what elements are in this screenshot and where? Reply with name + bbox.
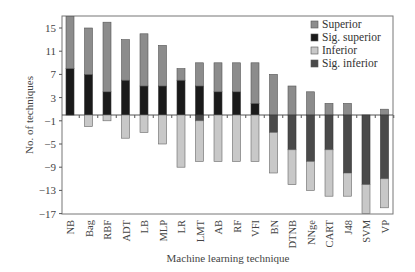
y-axis-title: No. of techniques [23, 76, 35, 154]
bar-sig-superior [66, 69, 74, 115]
bar-inferior [381, 179, 389, 208]
bar-sig-inferior [325, 115, 333, 150]
bar-inferior [307, 161, 315, 190]
bar-inferior [362, 185, 370, 214]
bar-sig-superior [251, 103, 259, 115]
y-tick-label: −9 [44, 161, 56, 173]
bar-sig-superior [177, 80, 185, 115]
bar-superior [140, 34, 148, 86]
y-ticks: 151173−1−5−9−13−17 [39, 22, 62, 220]
bar-inferior [233, 115, 241, 161]
bar-superior [325, 103, 333, 115]
legend: SuperiorSig. superiorInferiorSig. inferi… [311, 18, 381, 70]
bar-superior [66, 16, 74, 68]
bar-superior [214, 63, 222, 92]
legend-label: Superior [322, 18, 362, 31]
x-category-label: NNge [306, 220, 317, 245]
y-tick-label: −17 [39, 208, 57, 220]
stacked-bar-chart: 151173−1−5−9−13−17 NBBagRBFADTLBMLPLRLMT… [0, 0, 415, 272]
legend-label: Sig. inferior [322, 57, 378, 70]
legend-label: Inferior [322, 44, 357, 56]
x-axis-title: Machine learning technique [167, 252, 290, 264]
x-category-label: NB [65, 220, 76, 235]
x-category-label: VFI [250, 219, 261, 236]
bar-superior [233, 63, 241, 92]
bar-inferior [177, 115, 185, 167]
bar-superior [307, 92, 315, 115]
bar-superior [177, 69, 185, 81]
bar-sig-inferior [362, 115, 370, 185]
y-tick-label: −13 [39, 184, 57, 196]
bar-inferior [122, 115, 130, 138]
bar-inferior [325, 150, 333, 196]
bar-sig-inferior [288, 115, 296, 150]
bar-sig-superior [103, 92, 111, 115]
bar-sig-inferior [196, 115, 204, 121]
x-category-label: Bag [84, 219, 95, 237]
x-category-labels: NBBagRBFADTLBMLPLRLMTABRFVFIBNDTNBNNgeCA… [65, 219, 391, 248]
y-tick-label: 11 [45, 45, 56, 57]
legend-swatch [311, 34, 318, 41]
legend-swatch [311, 47, 318, 54]
bar-inferior [85, 115, 93, 127]
x-category-label: LMT [195, 219, 206, 242]
bar-superior [122, 40, 130, 81]
bar-superior [85, 28, 93, 74]
x-category-label: LR [176, 220, 187, 233]
y-tick-label: 3 [51, 92, 57, 104]
legend-label: Sig. superior [322, 31, 381, 44]
bar-inferior [288, 150, 296, 185]
x-category-label: RBF [102, 220, 113, 240]
bar-superior [344, 103, 352, 115]
bar-sig-superior [233, 92, 241, 115]
bar-inferior [251, 115, 259, 161]
bar-superior [288, 86, 296, 115]
bar-sig-superior [122, 80, 130, 115]
y-tick-label: −1 [44, 115, 56, 127]
x-category-label: RF [232, 220, 243, 233]
bar-sig-inferior [307, 115, 315, 161]
x-category-label: DTNB [287, 220, 298, 249]
bar-sig-superior [85, 74, 93, 115]
bar-superior [270, 74, 278, 115]
y-tick-label: 15 [45, 22, 57, 34]
legend-swatch [311, 60, 318, 67]
bar-superior [381, 109, 389, 115]
x-category-label: J48 [343, 220, 354, 235]
bar-superior [103, 22, 111, 92]
bar-sig-inferior [344, 115, 352, 173]
y-tick-label: −5 [44, 138, 56, 150]
bar-inferior [214, 115, 222, 161]
bar-superior [159, 45, 167, 86]
x-category-label: BN [269, 220, 280, 235]
bar-inferior [103, 115, 111, 121]
bar-inferior [159, 115, 167, 144]
bar-inferior [196, 121, 204, 162]
y-tick-label: 7 [51, 68, 57, 80]
bar-inferior [344, 173, 352, 196]
bar-sig-superior [196, 86, 204, 115]
x-category-label: MLP [158, 220, 169, 242]
bar-sig-inferior [381, 115, 389, 179]
bar-superior [251, 63, 259, 104]
bar-sig-superior [159, 86, 167, 115]
x-category-label: VP [380, 220, 391, 234]
bar-inferior [270, 132, 278, 173]
legend-swatch [311, 21, 318, 28]
bar-superior [196, 63, 204, 86]
bar-sig-superior [214, 92, 222, 115]
x-category-label: AB [213, 220, 224, 235]
x-category-label: ADT [121, 219, 132, 241]
x-category-label: CART [324, 219, 335, 247]
bar-sig-inferior [270, 115, 278, 132]
bar-inferior [140, 115, 148, 132]
x-category-label: LB [139, 220, 150, 233]
x-category-label: SVM [361, 219, 372, 242]
bar-sig-superior [140, 86, 148, 115]
